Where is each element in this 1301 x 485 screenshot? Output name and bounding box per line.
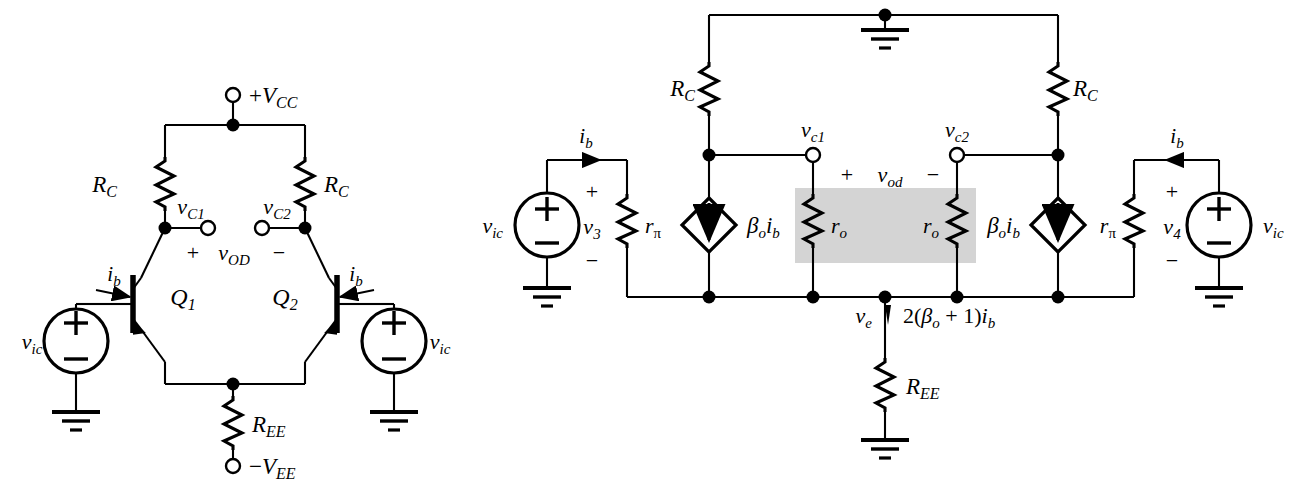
label-vod-minus-model: − bbox=[927, 162, 939, 187]
label-vod-plus: + bbox=[187, 240, 199, 265]
label-v4-plus: + bbox=[1166, 179, 1178, 204]
label-vod-minus: − bbox=[273, 240, 285, 265]
label-emitter-current: 2(βo + 1)ib bbox=[903, 303, 996, 331]
label-v3-plus: + bbox=[586, 179, 598, 204]
circuit-diagram-svg: +VCC RC RC vC1 vC2 + vOD − ib ib bbox=[0, 0, 1301, 485]
terminal-vc1-model[interactable] bbox=[806, 148, 820, 162]
shaded-highlight-region bbox=[795, 188, 976, 263]
terminal-vc1[interactable] bbox=[201, 221, 215, 235]
terminal-vc2[interactable] bbox=[255, 221, 269, 235]
terminal-vcc[interactable] bbox=[226, 88, 240, 102]
terminal-vc2-model[interactable] bbox=[950, 148, 964, 162]
terminal-vee[interactable] bbox=[226, 459, 240, 473]
junction-bottom-left-dep bbox=[703, 291, 716, 304]
junction-bottom-ro-left bbox=[807, 291, 820, 304]
label-v4-minus: − bbox=[1166, 248, 1178, 273]
label-v3-minus: − bbox=[586, 248, 598, 273]
junction-vcc bbox=[227, 119, 240, 132]
junction-bottom-right-dep bbox=[1052, 291, 1065, 304]
figure-canvas: +VCC RC RC vC1 vC2 + vOD − ib ib bbox=[0, 0, 1301, 485]
label-vod-plus-model: + bbox=[841, 162, 853, 187]
junction-bottom-ro-right bbox=[951, 291, 964, 304]
